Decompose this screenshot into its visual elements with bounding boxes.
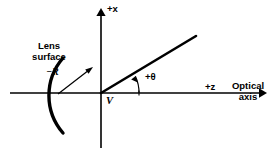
horizontal-axis-label: +z [205, 82, 215, 93]
lens-surface-label: Lens surface [22, 41, 76, 62]
radius-label: −R [46, 66, 59, 77]
ray-line [101, 36, 196, 93]
arrow-up-icon [96, 8, 105, 16]
diagram-canvas [0, 0, 273, 157]
optical-axis-name-line1: Optical [232, 80, 264, 91]
vertex-label: V [106, 95, 113, 107]
vertical-axis-label: +x [107, 4, 118, 15]
optical-axis-name: Optical axis [226, 81, 270, 102]
lens-surface-label-line2: surface [22, 52, 76, 63]
optics-lens-surface-figure: Lens surface −R V +θ +x +z Optical axis [0, 0, 273, 157]
optical-axis-name-line2: axis [226, 92, 270, 103]
radius-arrow-line [58, 70, 89, 94]
lens-surface-label-line1: Lens [38, 40, 60, 51]
theta-angle-label: +θ [145, 72, 156, 83]
